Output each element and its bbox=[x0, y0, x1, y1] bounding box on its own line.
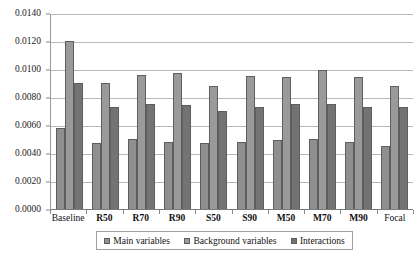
x-axis-tick-label: R70 bbox=[123, 211, 159, 227]
bar bbox=[200, 143, 209, 209]
bar bbox=[110, 107, 119, 209]
legend-item-label: Main variables bbox=[113, 236, 170, 246]
bar bbox=[354, 77, 363, 209]
bar bbox=[390, 86, 399, 209]
x-axis-tick-label: M50 bbox=[268, 211, 304, 227]
legend-item-label: Background variables bbox=[193, 236, 276, 246]
bar bbox=[255, 107, 264, 209]
y-axis-tick-label: 0.0140 bbox=[15, 9, 41, 19]
bar bbox=[146, 104, 155, 209]
bar-group bbox=[304, 14, 340, 209]
bar bbox=[345, 142, 354, 209]
bar bbox=[101, 83, 110, 209]
bar-group bbox=[268, 14, 304, 209]
x-axis-tick-mark bbox=[159, 210, 160, 214]
bar-group bbox=[196, 14, 232, 209]
bar bbox=[137, 75, 146, 209]
y-axis-tick-mark bbox=[46, 42, 50, 43]
y-axis-tick-label: 0.0060 bbox=[15, 121, 41, 131]
bar bbox=[318, 70, 327, 209]
x-axis-tick-label: M90 bbox=[340, 211, 376, 227]
y-axis-tick-label: 0.0100 bbox=[15, 65, 41, 75]
bar-group bbox=[232, 14, 268, 209]
y-axis-tick-mark bbox=[46, 14, 50, 15]
bar bbox=[182, 105, 191, 209]
y-axis-tick-mark bbox=[46, 126, 50, 127]
bar bbox=[327, 104, 336, 209]
x-axis-tick-mark bbox=[377, 210, 378, 214]
x-axis-tick-label: M70 bbox=[304, 211, 340, 227]
bar-group bbox=[160, 14, 196, 209]
bar bbox=[246, 76, 255, 209]
legend-item[interactable]: Background variables bbox=[184, 236, 276, 246]
bar bbox=[309, 139, 318, 209]
bar bbox=[65, 41, 74, 209]
x-axis-tick-label: Focal bbox=[377, 211, 413, 227]
bar bbox=[173, 73, 182, 209]
legend-swatch-icon bbox=[104, 238, 110, 244]
bar-group bbox=[377, 14, 413, 209]
bar bbox=[74, 83, 83, 209]
bar bbox=[209, 86, 218, 209]
bars-layer bbox=[51, 14, 413, 209]
legend-item-label: Interactions bbox=[300, 236, 345, 246]
bar bbox=[399, 107, 408, 209]
x-axis-tick-label: Baseline bbox=[50, 211, 86, 227]
bar bbox=[291, 104, 300, 209]
bar bbox=[92, 143, 101, 209]
x-axis-tick-label: R90 bbox=[159, 211, 195, 227]
x-axis-tick-mark bbox=[232, 210, 233, 214]
bar bbox=[164, 142, 173, 209]
y-axis-tick-label: 0.0080 bbox=[15, 93, 41, 103]
bar bbox=[282, 77, 291, 209]
y-axis-tick-mark bbox=[46, 154, 50, 155]
y-axis-tick-label: 0.0120 bbox=[15, 37, 41, 47]
y-axis-tick-label: 0.0020 bbox=[15, 177, 41, 187]
y-axis-tick-mark bbox=[46, 70, 50, 71]
bar bbox=[381, 146, 390, 209]
x-axis-tick-mark bbox=[86, 210, 87, 214]
x-axis-tick-mark bbox=[340, 210, 341, 214]
plot-area bbox=[50, 14, 413, 210]
legend-swatch-icon bbox=[184, 238, 190, 244]
chart-legend: Main variablesBackground variablesIntera… bbox=[96, 231, 353, 250]
bar-group bbox=[123, 14, 159, 209]
x-axis-tick-label: R50 bbox=[86, 211, 122, 227]
bar bbox=[128, 139, 137, 209]
chart-title bbox=[0, 0, 419, 1]
y-axis-tick-mark bbox=[46, 182, 50, 183]
bar bbox=[363, 107, 372, 209]
x-axis-tick-mark bbox=[50, 210, 51, 214]
bar-chart: 0.01400.01200.01000.00800.00600.00400.00… bbox=[0, 0, 419, 272]
x-axis-tick-mark bbox=[195, 210, 196, 214]
legend-item[interactable]: Main variables bbox=[104, 236, 170, 246]
y-axis: 0.01400.01200.01000.00800.00600.00400.00… bbox=[0, 14, 46, 210]
bar bbox=[218, 111, 227, 209]
x-axis-tick-label: S50 bbox=[195, 211, 231, 227]
bar bbox=[237, 142, 246, 209]
y-axis-tick-label: 0.0000 bbox=[15, 205, 41, 215]
x-axis-tick-mark bbox=[413, 210, 414, 214]
x-axis-tick-mark bbox=[304, 210, 305, 214]
bar-group bbox=[51, 14, 87, 209]
legend-swatch-icon bbox=[291, 238, 297, 244]
y-axis-tick-mark bbox=[46, 98, 50, 99]
bar bbox=[56, 128, 65, 209]
bar-group bbox=[341, 14, 377, 209]
legend-item[interactable]: Interactions bbox=[291, 236, 345, 246]
y-axis-tick-label: 0.0040 bbox=[15, 149, 41, 159]
bar-group bbox=[87, 14, 123, 209]
x-axis-tick-mark bbox=[268, 210, 269, 214]
x-axis-tick-label: S90 bbox=[231, 211, 267, 227]
bar bbox=[273, 140, 282, 209]
x-axis-tick-mark bbox=[123, 210, 124, 214]
